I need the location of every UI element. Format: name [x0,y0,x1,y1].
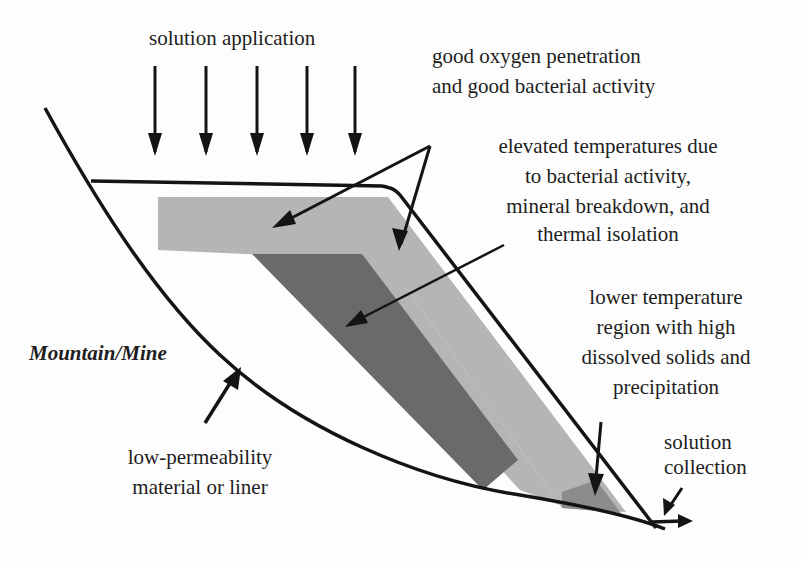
mountain-mine-label: Mountain/Mine [29,341,167,366]
elevated-label-line3: mineral breakdown, and [478,194,738,219]
elevated-label-line4: thermal isolation [478,222,738,247]
solution-application-arrows [148,66,362,156]
heap-leach-diagram: solution application good oxygen penetra… [0,0,801,561]
collection-label-line1: solution [664,430,732,455]
liner-label-line1: low-permeability [100,445,300,470]
lower-temp-label-line3: dissolved solids and [556,345,776,370]
lower-temp-label-line2: region with high [556,315,776,340]
oxygen-label-line2: and good bacterial activity [432,74,655,99]
solution-application-label: solution application [149,26,315,51]
solution-collection-arrows [652,488,693,528]
liner-label-line2: material or liner [100,475,300,500]
lower-temp-label-line4: precipitation [556,375,776,400]
lower-temp-label-line1: lower temperature [556,285,776,310]
oxygen-label-line1: good oxygen penetration [432,44,641,69]
liner-pointer [205,367,241,423]
elevated-label-line2: to bacterial activity, [478,164,738,189]
collection-label-line2: collection [664,455,747,480]
elevated-label-line1: elevated temperatures due [478,134,738,159]
